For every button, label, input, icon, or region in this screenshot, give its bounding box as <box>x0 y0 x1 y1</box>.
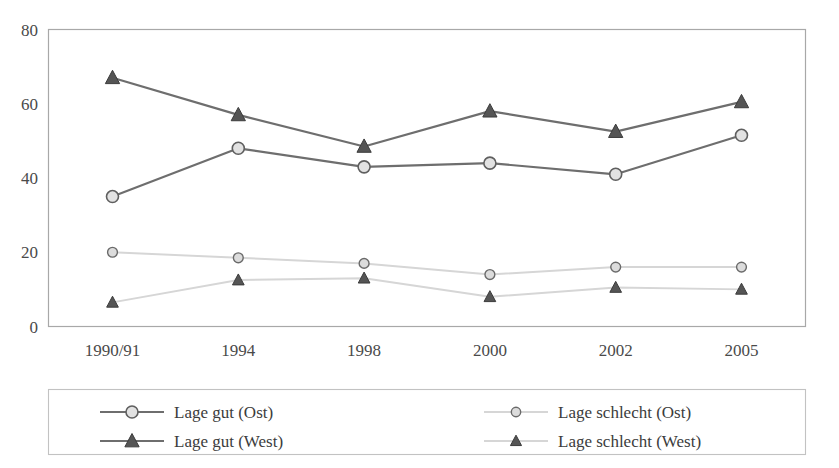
x-tick-label: 1998 <box>347 341 381 360</box>
legend-item-label: Lage gut (West) <box>174 432 283 451</box>
y-tick-label: 60 <box>21 95 38 114</box>
data-point-marker-circle <box>736 129 748 141</box>
x-axis-tick-labels: 1990/9119941998200020022005 <box>85 341 759 360</box>
chart-container: 020406080 1990/9119941998200020022005 La… <box>0 0 839 468</box>
y-tick-label: 20 <box>21 243 38 262</box>
data-point-marker-circle <box>485 270 495 280</box>
data-point-marker-circle <box>233 253 243 263</box>
data-point-marker-circle <box>484 157 496 169</box>
line-chart: 020406080 1990/9119941998200020022005 La… <box>0 0 839 468</box>
legend-item-label: Lage schlecht (Ost) <box>558 403 691 422</box>
legend-item-label: Lage schlecht (West) <box>558 432 701 451</box>
data-point-marker-circle <box>611 262 621 272</box>
y-tick-label: 80 <box>21 21 38 40</box>
data-point-marker-circle <box>107 191 119 203</box>
legend-item-label: Lage gut (Ost) <box>174 403 273 422</box>
x-tick-label: 2000 <box>473 341 507 360</box>
x-tick-label: 2005 <box>725 341 759 360</box>
y-tick-label: 0 <box>30 318 39 337</box>
x-tick-label: 2002 <box>599 341 633 360</box>
data-point-marker-circle <box>126 406 138 418</box>
data-point-marker-circle <box>359 258 369 268</box>
data-point-marker-circle <box>108 247 118 257</box>
data-point-marker-circle <box>358 161 370 173</box>
x-tick-label: 1990/91 <box>85 341 141 360</box>
data-point-marker-circle <box>737 262 747 272</box>
data-point-marker-circle <box>610 168 622 180</box>
y-tick-label: 40 <box>21 169 38 188</box>
x-tick-label: 1994 <box>221 341 256 360</box>
y-axis-tick-labels: 020406080 <box>21 21 38 337</box>
data-point-marker-circle <box>232 142 244 154</box>
data-point-marker-circle <box>511 407 520 416</box>
